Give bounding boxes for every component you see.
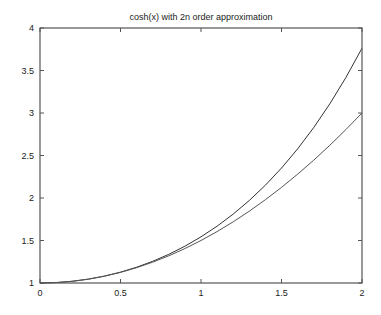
plot-lines (40, 48, 362, 283)
x-tick-label: 0.5 (114, 288, 127, 298)
x-tick-label: 1.5 (275, 288, 288, 298)
y-tick-label: 3.5 (21, 66, 34, 76)
x-tick-label: 1 (198, 288, 203, 298)
y-tick-label: 1 (29, 278, 34, 288)
y-axis: 11.522.533.54 (21, 23, 362, 288)
y-tick-label: 2 (29, 193, 34, 203)
chart-title: cosh(x) with 2n order approximation (129, 12, 272, 22)
y-tick-label: 2.5 (21, 151, 34, 161)
series-line-1 (40, 113, 362, 283)
y-tick-label: 4 (29, 23, 34, 33)
x-tick-label: 2 (359, 288, 364, 298)
x-axis: 00.511.52 (37, 28, 364, 298)
x-tick-label: 0 (37, 288, 42, 298)
y-tick-label: 3 (29, 108, 34, 118)
chart: cosh(x) with 2n order approximation 00.5… (0, 0, 381, 315)
axes-frame (40, 28, 362, 283)
y-tick-label: 1.5 (21, 236, 34, 246)
series-line-0 (40, 48, 362, 283)
